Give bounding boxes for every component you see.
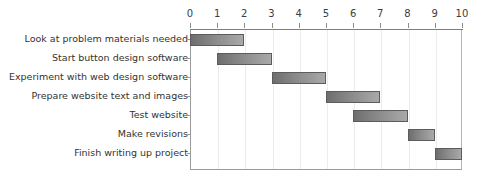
x-axis-tick-label: 3 <box>268 8 275 19</box>
x-axis-tick-mark <box>217 23 218 28</box>
task-bar[interactable] <box>190 34 244 46</box>
x-axis-tick-label: 9 <box>432 8 439 19</box>
task-bar[interactable] <box>272 72 326 84</box>
y-axis-tick-mark <box>187 58 190 59</box>
x-axis-tick-label: 6 <box>350 8 357 19</box>
task-row[interactable]: Start button design software <box>0 51 478 70</box>
x-axis-tick-label: 0 <box>187 8 194 19</box>
y-axis-tick-mark <box>187 134 190 135</box>
task-label: Look at problem materials needed <box>3 33 188 45</box>
x-axis: 012345678910 <box>190 8 463 30</box>
y-axis-tick-mark <box>187 96 190 97</box>
x-axis-tick-mark <box>380 23 381 28</box>
task-row[interactable]: Test website <box>0 108 478 127</box>
task-label: Finish writing up project <box>3 147 188 159</box>
task-label: Experiment with web design software <box>3 71 188 83</box>
task-bar[interactable] <box>326 91 380 103</box>
x-axis-tick-label: 5 <box>323 8 330 19</box>
task-bar[interactable] <box>435 148 462 160</box>
x-axis-tick-mark <box>272 23 273 28</box>
y-axis-tick-mark <box>187 153 190 154</box>
x-axis-tick-label: 7 <box>377 8 384 19</box>
task-row[interactable]: Make revisions <box>0 127 478 146</box>
x-axis-tick-label: 10 <box>455 8 468 19</box>
x-axis-tick-label: 8 <box>404 8 411 19</box>
x-axis-tick-mark <box>462 23 463 28</box>
x-axis-tick-mark <box>326 23 327 28</box>
task-rows: Look at problem materials neededStart bu… <box>0 30 478 170</box>
x-axis-tick-label: 1 <box>214 8 221 19</box>
x-axis-tick-mark <box>353 23 354 28</box>
task-label: Prepare website text and images <box>3 90 188 102</box>
task-label: Start button design software <box>3 52 188 64</box>
x-axis-tick-label: 4 <box>296 8 303 19</box>
y-axis-tick-mark <box>187 115 190 116</box>
x-axis-tick-mark <box>190 23 191 28</box>
x-axis-tick-label: 2 <box>241 8 248 19</box>
task-row[interactable]: Finish writing up project <box>0 146 478 165</box>
x-axis-tick-mark <box>435 23 436 28</box>
task-bar[interactable] <box>353 110 407 122</box>
x-axis-tick-mark <box>408 23 409 28</box>
gantt-chart: 012345678910 Look at problem materials n… <box>0 0 478 180</box>
task-row[interactable]: Prepare website text and images <box>0 89 478 108</box>
task-label: Test website <box>3 109 188 121</box>
task-row[interactable]: Look at problem materials needed <box>0 32 478 51</box>
y-axis-tick-mark <box>187 77 190 78</box>
task-row[interactable]: Experiment with web design software <box>0 70 478 89</box>
task-label: Make revisions <box>3 128 188 140</box>
x-axis-tick-mark <box>244 23 245 28</box>
task-bar[interactable] <box>408 129 435 141</box>
task-bar[interactable] <box>217 53 271 65</box>
x-axis-tick-mark <box>299 23 300 28</box>
